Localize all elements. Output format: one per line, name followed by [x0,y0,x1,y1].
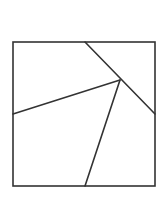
diagram-canvas [0,0,166,201]
outer-square [13,42,155,186]
top-to-right-diagonal-line [85,42,155,114]
interior-to-bottom-line [85,80,120,186]
square-dissection-diagram [0,0,166,201]
left-to-interior-line [13,80,120,114]
